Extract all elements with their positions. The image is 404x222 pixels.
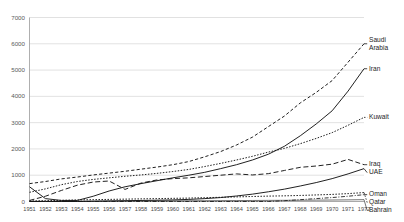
series-leader-line [364,169,367,173]
series-label-saudi-arabia: SaudiArabia [369,36,388,50]
series-label-text: UAE [369,168,383,175]
series-lines-group [30,44,368,211]
series-line-kuwait [30,117,365,192]
y-tick-label: 4000 [11,92,25,99]
series-label-line2: Arabia [369,44,388,51]
x-tick-label: 1958 [135,206,147,212]
series-label-text: Iran [369,65,381,72]
series-line-iran [30,69,365,201]
x-tick-label: 1960 [167,206,179,212]
plot-area: 01000200030004000500060007000 1951195219… [0,0,404,222]
series-line-iraq [30,159,365,200]
y-tick-label: 5000 [11,66,25,73]
x-tick-label: 1959 [151,206,163,212]
x-tick-label: 1970 [326,206,338,212]
series-inline-labels: SaudiArabiaIranKuwaitIraqUAEOmanQatarBah… [369,36,392,213]
y-tick-label: 3000 [11,119,25,126]
y-tick-label: 6000 [11,40,25,47]
x-tick-label: 1969 [310,206,322,212]
x-tick-label: 1954 [71,206,83,212]
series-label-text: Bahrain [369,206,392,213]
x-tick-label: 1963 [214,206,226,212]
series-label-text: Qatar [369,198,386,206]
x-tick-label: 1968 [294,206,306,212]
x-tick-label: 1962 [198,206,210,212]
x-tick-label: 1964 [230,206,242,212]
y-tick-label: 0 [22,198,26,205]
series-label-iraq: Iraq [369,160,381,168]
x-tick-label: 1957 [119,206,131,212]
x-tick-label: 1961 [183,206,195,212]
series-label-text: Oman [369,190,387,197]
x-tick-label: 1952 [39,206,51,212]
series-label-bahrain: Bahrain [369,206,392,213]
series-label-text: Iraq [369,160,381,168]
x-tick-label: 1956 [103,206,115,212]
x-axis-tick-labels: 1951195219531954195519561957195819591960… [23,206,370,212]
series-label-text: Kuwait [369,113,389,120]
x-tick-label: 1967 [278,206,290,212]
series-label-iran: Iran [369,65,381,72]
x-tick-label: 1955 [87,206,99,212]
chart-canvas: 01000200030004000500060007000 1951195219… [0,0,404,222]
series-label-oman: Oman [369,190,387,197]
y-tick-label: 1000 [11,171,25,178]
x-tick-label: 1966 [262,206,274,212]
x-tick-label: 1951 [23,206,35,212]
x-tick-label: 1953 [55,206,67,212]
series-label-kuwait: Kuwait [369,113,389,120]
series-label-uae: UAE [369,168,383,175]
oil-revenue-line-chart: 01000200030004000500060007000 1951195219… [0,0,404,222]
series-label-qatar: Qatar [369,198,386,206]
y-tick-label: 2000 [11,145,25,152]
x-tick-label: 1971 [342,206,354,212]
y-axis-tick-labels: 01000200030004000500060007000 [11,14,25,205]
y-tick-label: 7000 [11,14,25,21]
series-label-line1: Saudi [369,36,386,43]
series-line-saudi-arabia [30,44,365,184]
x-tick-label: 1965 [246,206,258,212]
